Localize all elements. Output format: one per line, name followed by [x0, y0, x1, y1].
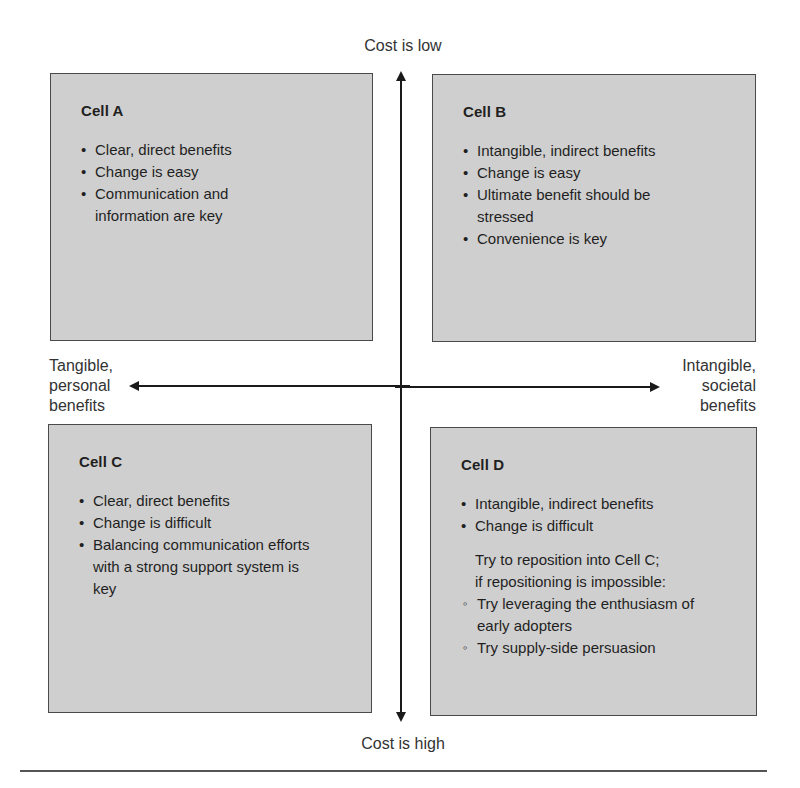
axis-label-line: Tangible,	[49, 356, 139, 376]
cell-bullet-list: Clear, direct benefits Change is easy Co…	[81, 139, 372, 227]
axis-label-tangible-benefits: Tangible, personal benefits	[49, 356, 139, 416]
cell-title: Cell A	[81, 102, 372, 119]
axis-label-cost-high: Cost is high	[348, 734, 458, 754]
list-item: Change is difficult	[461, 515, 756, 537]
cell-bullet-list: Intangible, indirect benefits Change is …	[461, 493, 756, 537]
list-item: Clear, direct benefits	[79, 490, 371, 512]
bottom-divider	[20, 770, 767, 772]
cell-title: Cell B	[463, 103, 755, 120]
list-item: Change is difficult	[79, 512, 371, 534]
axis-label-line: personal	[49, 376, 139, 396]
note-line: if repositioning is impossible:	[475, 571, 756, 593]
list-item: Change is easy	[81, 161, 372, 183]
cell-b: Cell B Intangible, indirect benefits Cha…	[432, 74, 756, 342]
axis-label-line: societal	[656, 376, 756, 396]
cell-d: Cell D Intangible, indirect benefits Cha…	[430, 427, 757, 716]
axis-label-intangible-benefits: Intangible, societal benefits	[656, 356, 756, 416]
cell-c: Cell C Clear, direct benefits Change is …	[48, 424, 372, 713]
note-line: Try to reposition into Cell C;	[475, 549, 756, 571]
list-item: Clear, direct benefits	[81, 139, 372, 161]
list-item: Communication and information are key	[81, 183, 285, 227]
cell-title: Cell C	[79, 453, 371, 470]
axis-label-line: Intangible,	[656, 356, 756, 376]
list-item: Intangible, indirect benefits	[463, 140, 755, 162]
sub-list-item: Try supply-side persuasion	[463, 637, 756, 659]
cell-bullet-list: Clear, direct benefits Change is difficu…	[79, 490, 371, 600]
cell-bullet-list: Intangible, indirect benefits Change is …	[463, 140, 755, 250]
list-item: Convenience is key	[463, 228, 755, 250]
sub-list-item: Try leveraging the enthusiasm of early a…	[463, 593, 727, 637]
cell-title: Cell D	[461, 456, 756, 473]
list-item: Balancing communication efforts with a s…	[79, 534, 318, 600]
axis-label-line: benefits	[49, 396, 139, 416]
list-item: Intangible, indirect benefits	[461, 493, 756, 515]
list-item: Ultimate benefit should be stressed	[463, 184, 677, 228]
list-item: Change is easy	[463, 162, 755, 184]
cell-a: Cell A Clear, direct benefits Change is …	[50, 73, 373, 341]
reposition-note: Try to reposition into Cell C; if reposi…	[475, 549, 756, 593]
cell-sub-bullet-list: Try leveraging the enthusiasm of early a…	[461, 593, 756, 659]
axis-label-line: benefits	[656, 396, 756, 416]
axis-label-cost-low: Cost is low	[348, 36, 458, 56]
